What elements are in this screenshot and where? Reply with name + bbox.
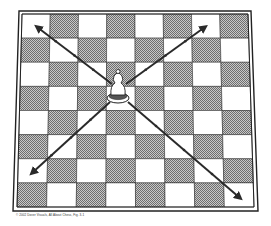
board-square: [78, 62, 107, 86]
board-square: [135, 38, 164, 62]
board-square: [220, 14, 249, 38]
arrow-tick: [92, 68, 95, 71]
board-square: [223, 135, 253, 159]
board-square: [165, 159, 195, 183]
arrow-tick: [73, 54, 76, 57]
board-square: [192, 38, 221, 62]
board-square: [135, 183, 165, 207]
board-square: [221, 86, 251, 110]
arrow-tick: [183, 149, 186, 152]
board-square: [194, 135, 224, 159]
board-square: [164, 86, 193, 110]
chess-diagram: [0, 0, 271, 226]
board-square: [106, 135, 135, 159]
arrow-tick: [50, 154, 53, 157]
board-square: [21, 38, 50, 62]
board-square: [78, 38, 107, 62]
board-square: [192, 62, 221, 86]
arrow-tick: [144, 68, 147, 71]
board-square: [221, 62, 250, 86]
board-square: [50, 14, 79, 38]
board-square: [17, 183, 47, 207]
board-squares: [17, 14, 254, 207]
board-square: [77, 111, 106, 135]
board-square: [135, 86, 164, 110]
board-square: [164, 62, 193, 86]
board-square: [194, 183, 224, 207]
board-square: [135, 159, 165, 183]
board-square: [165, 183, 195, 207]
board-square: [193, 111, 223, 135]
board-square: [77, 86, 106, 110]
board-square: [163, 38, 192, 62]
figure-caption: © 2002 Dover Visuals, All About Chess, F…: [16, 213, 84, 217]
board-square: [135, 14, 163, 38]
board-square: [20, 86, 49, 110]
board-square: [224, 183, 254, 207]
board-square: [18, 135, 48, 159]
board-square: [135, 135, 164, 159]
bishop-finial: [116, 70, 120, 74]
board-square: [106, 159, 135, 183]
board-square: [47, 183, 77, 207]
arrow-tick: [184, 40, 187, 43]
board-square: [76, 183, 106, 207]
board-square: [47, 159, 77, 183]
board-square: [77, 159, 107, 183]
board-square: [48, 111, 77, 135]
arrow-tick: [164, 54, 167, 57]
board-square: [193, 86, 222, 110]
arrow-tick: [211, 173, 214, 176]
arrow-tick: [70, 136, 73, 139]
board-square: [164, 111, 193, 135]
board-square: [107, 38, 136, 62]
board-square: [48, 86, 77, 110]
board-square: [163, 14, 192, 38]
board-square: [222, 111, 252, 135]
board-square: [107, 14, 135, 38]
board-square: [220, 38, 249, 62]
board-square: [77, 135, 106, 159]
board-square: [135, 111, 164, 135]
board-square: [19, 111, 49, 135]
board-square: [49, 62, 78, 86]
arrow-tick: [155, 125, 158, 128]
board-square: [106, 111, 135, 135]
board-square: [78, 14, 107, 38]
arrow-tick: [89, 118, 92, 121]
board-square: [20, 62, 49, 86]
board-square: [106, 183, 136, 207]
board-square: [223, 159, 253, 183]
arrow-tick: [54, 40, 57, 43]
board-square: [49, 38, 78, 62]
